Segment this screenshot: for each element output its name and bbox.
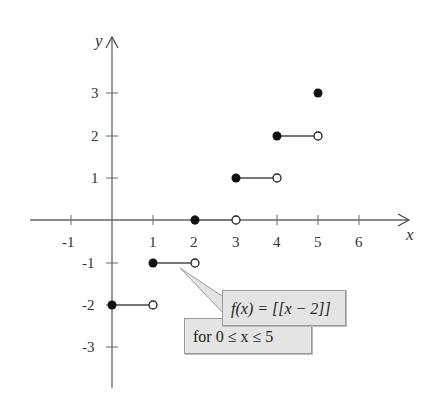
closed-point xyxy=(149,259,158,268)
function-text: f(x) = [[x − 2]] xyxy=(231,300,331,317)
open-point xyxy=(149,301,157,309)
y-tick-label: 2 xyxy=(91,128,99,144)
open-point xyxy=(314,132,322,140)
x-tick-label: 3 xyxy=(232,234,240,250)
open-point xyxy=(191,259,199,267)
x-tick-label: 5 xyxy=(314,234,322,250)
y-axis xyxy=(106,37,118,388)
y-axis-label: y xyxy=(93,31,103,50)
x-tick-label: 4 xyxy=(273,234,281,250)
x-tick-label: 1 xyxy=(149,234,157,250)
x-tick-label: 2 xyxy=(190,234,198,250)
y-tick-label: 1 xyxy=(91,170,99,186)
x-axis-label: x xyxy=(405,225,414,244)
callout-pointer xyxy=(180,268,228,318)
x-tick-label: -1 xyxy=(62,234,75,250)
closed-point xyxy=(191,216,200,225)
domain-text: for 0 ≤ x ≤ 5 xyxy=(193,328,273,345)
x-tick-label: 6 xyxy=(355,234,363,250)
open-point xyxy=(273,174,281,182)
y-tick-label: -3 xyxy=(82,339,95,355)
closed-point xyxy=(273,132,282,141)
open-point xyxy=(232,216,240,224)
y-tick-label: -1 xyxy=(82,255,95,271)
y-tick-label: 3 xyxy=(91,85,99,101)
closed-point xyxy=(232,174,241,183)
closed-point xyxy=(314,89,323,98)
y-tick-label: -2 xyxy=(82,297,95,313)
closed-points xyxy=(108,89,323,310)
function-callout: f(x) = [[x − 2]] xyxy=(222,290,346,326)
closed-point xyxy=(108,301,117,310)
